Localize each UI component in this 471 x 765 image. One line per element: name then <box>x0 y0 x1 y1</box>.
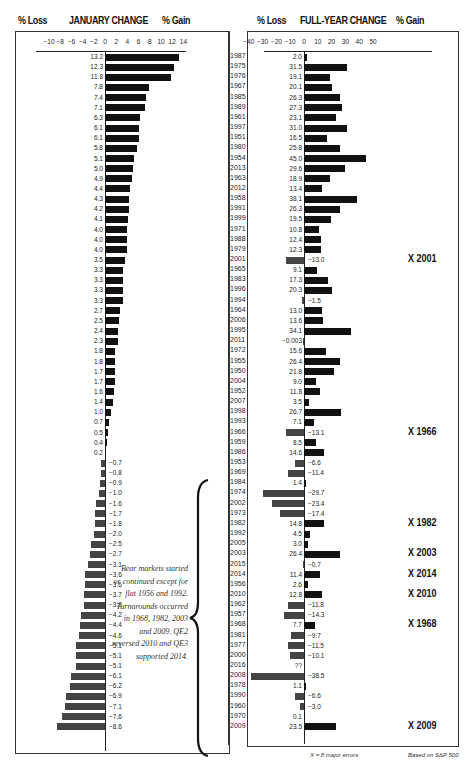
bar-value-label: 13.0 <box>289 306 302 316</box>
bar-value-label: 10.8 <box>289 225 302 235</box>
gain-bar <box>304 399 309 406</box>
bar-row: 21.8 <box>248 367 458 377</box>
loss-bar <box>76 642 105 649</box>
gain-bar <box>105 287 123 294</box>
bar-row: 31.0 <box>248 123 458 133</box>
gain-bar <box>304 135 327 142</box>
gain-bar <box>304 419 314 426</box>
loss-bar <box>101 460 105 467</box>
bar-value-label: −1.0 <box>109 488 122 498</box>
gain-bar <box>105 155 134 162</box>
gain-bar <box>105 114 140 121</box>
bar-value-label: −11.4 <box>308 468 324 478</box>
bar-row: 1.1 <box>248 681 458 691</box>
gain-bar <box>304 54 307 61</box>
year-label: 1992 <box>230 528 246 538</box>
bar-value-label: 26.3 <box>289 93 302 103</box>
major-error-marker: X 1982 <box>408 517 437 528</box>
year-label: 2012 <box>230 183 246 193</box>
bar-row: 0.2 <box>16 448 229 458</box>
bar-row: ?? <box>248 661 458 671</box>
x-tick-label: 8 <box>148 38 152 45</box>
bar-value-label: −0.9 <box>109 478 122 488</box>
bar-value-label: −29.7 <box>308 488 324 498</box>
bar-value-label: 3.0 <box>293 539 302 549</box>
x-tick-label: 10 <box>314 38 321 45</box>
bar-value-label: −11.8 <box>308 600 324 610</box>
bar-row: 8.5 <box>248 438 458 448</box>
bar-row: 20.3 <box>248 285 458 295</box>
annotation-note: Bear markets started or continued except… <box>112 563 188 663</box>
bar-value-label: −6.2 <box>109 681 122 691</box>
fy-chart-title: FULL-YEAR CHANGE <box>300 14 386 26</box>
bar-value-label: 6.1 <box>94 123 103 133</box>
year-label: 1978 <box>230 680 246 690</box>
gain-bar <box>304 531 310 538</box>
bar-value-label: ?? <box>295 661 302 671</box>
loss-bar <box>272 500 304 507</box>
gain-bar <box>304 358 340 365</box>
year-label: 2003 <box>230 548 246 558</box>
x-tick-label: 2 <box>114 38 118 45</box>
bar-value-label: 7.1 <box>293 417 302 427</box>
gain-bar <box>304 591 322 598</box>
year-label: 1955 <box>230 356 246 366</box>
bar-value-label: 11.8 <box>290 387 302 397</box>
year-label: 1999 <box>230 213 246 223</box>
year-label: 1975 <box>230 61 246 71</box>
bar-row: 7.1 <box>16 103 229 113</box>
gain-bar <box>105 348 115 355</box>
bar-row: −6.6 <box>248 691 458 701</box>
bar-row: 1.8 <box>16 357 229 367</box>
bar-value-label: 4.2 <box>94 204 103 214</box>
bar-row: 34.1 <box>248 326 458 336</box>
year-label: 1979 <box>230 244 246 254</box>
x-tick-label: −40 <box>243 38 254 45</box>
year-label: 2004 <box>230 376 246 386</box>
bar-row: 2.7 <box>16 306 229 316</box>
gain-bar <box>304 74 330 81</box>
bar-value-label: 1.8 <box>94 346 103 356</box>
bar-value-label: −1.6 <box>109 499 122 509</box>
year-label: 2014 <box>230 569 246 579</box>
gain-bar <box>304 520 324 527</box>
gain-bar <box>105 226 127 233</box>
loss-bar <box>290 652 304 659</box>
bar-row: 3.3 <box>16 285 229 295</box>
bar-row: 27.3 <box>248 103 458 113</box>
gain-bar <box>304 449 324 456</box>
gain-bar <box>304 409 341 416</box>
bar-value-label: −3.0 <box>308 702 321 712</box>
gain-bar <box>304 196 357 203</box>
loss-bar <box>291 632 304 639</box>
bar-value-label: −2.0 <box>109 529 122 539</box>
bar-value-label: 13.6 <box>289 316 302 326</box>
gain-bar <box>304 348 326 355</box>
bar-value-label: 16.5 <box>289 133 302 143</box>
gain-bar <box>105 399 113 406</box>
bar-row: 7.8 <box>16 82 229 92</box>
bar-row: 13.0 <box>248 306 458 316</box>
bar-value-label: 19.5 <box>289 214 302 224</box>
year-label: 1950 <box>230 366 246 376</box>
bar-row: 23.1 <box>248 113 458 123</box>
year-label: 1985 <box>230 92 246 102</box>
bar-value-label: −6.6 <box>308 691 321 701</box>
year-label: 1991 <box>230 203 246 213</box>
bar-value-label: 5.0 <box>94 164 103 174</box>
bar-row: 25.8 <box>248 143 458 153</box>
year-label: 1967 <box>230 81 246 91</box>
bar-row: 19.5 <box>248 214 458 224</box>
bar-value-label: 1.4 <box>293 478 302 488</box>
bar-row: −1.5 <box>248 296 458 306</box>
year-label: 1961 <box>230 112 246 122</box>
major-error-marker: X 2001 <box>408 253 437 264</box>
year-label: 1951 <box>230 132 246 142</box>
jan-x-axis-ticks: −10−8−6−4−202468101214 <box>16 38 229 48</box>
bar-row: 26.7 <box>248 407 458 417</box>
bar-row: 3.3 <box>16 275 229 285</box>
gain-bar <box>304 541 308 548</box>
year-label: 1996 <box>230 284 246 294</box>
x-tick-label: −8 <box>56 38 63 45</box>
bar-row: 3.5 <box>16 255 229 265</box>
